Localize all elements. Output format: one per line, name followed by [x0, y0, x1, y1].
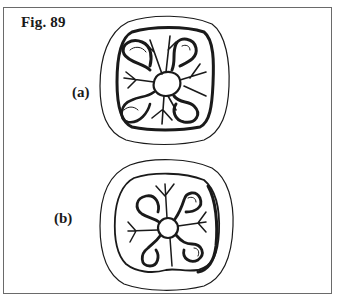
seal-a	[100, 16, 229, 144]
seal-drawings	[0, 0, 337, 297]
seal-b	[100, 160, 233, 291]
